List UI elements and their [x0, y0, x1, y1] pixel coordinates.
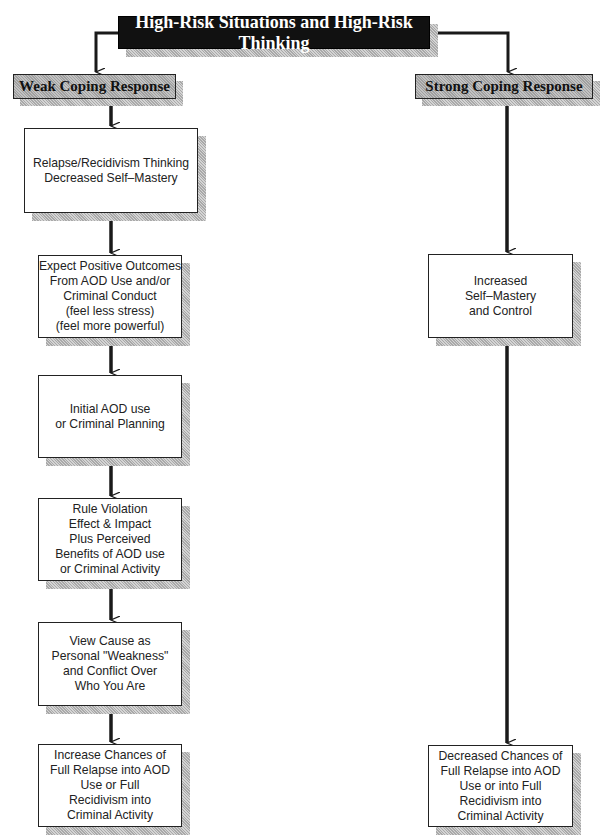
step-line: Increased: [474, 274, 528, 289]
weak-step-5: View Cause as Personal "Weakness" and Co…: [38, 622, 182, 706]
connector-title-to-strong: [430, 33, 508, 72]
step-line: Decreased Self–Mastery: [44, 171, 177, 186]
step-line: Full Relapse into AOD: [441, 764, 561, 779]
step-line: or Criminal Activity: [60, 562, 160, 577]
step-line: Expect Positive Outcomes: [39, 259, 181, 274]
weak-step-1: Relapse/Recidivism Thinking Decreased Se…: [24, 128, 198, 213]
step-line: Use or into Full: [460, 779, 542, 794]
step-line: Rule Violation: [73, 502, 148, 517]
step-line: or Criminal Planning: [55, 417, 165, 432]
strong-step-1: Increased Self–Mastery and Control: [428, 254, 573, 338]
step-line: From AOD Use and/or: [50, 274, 171, 289]
step-line: Benefits of AOD use: [55, 547, 165, 562]
weak-coping-label: Weak Coping Response: [19, 78, 170, 95]
strong-coping-box: Strong Coping Response: [415, 74, 593, 99]
title-box: High-Risk Situations and High-Risk Think…: [118, 16, 430, 49]
weak-step-2: Expect Positive Outcomes From AOD Use an…: [38, 255, 182, 338]
flowchart: High-Risk Situations and High-Risk Think…: [0, 0, 607, 835]
title-text: High-Risk Situations and High-Risk Think…: [119, 12, 429, 54]
step-line: and Control: [469, 304, 532, 319]
step-line: Criminal Conduct: [63, 289, 156, 304]
step-line: (feel more powerful): [56, 319, 164, 334]
step-line: Recidivism into: [69, 793, 151, 808]
step-line: and Conflict Over: [63, 664, 157, 679]
strong-step-2: Decreased Chances of Full Relapse into A…: [428, 745, 573, 827]
step-line: View Cause as: [69, 634, 150, 649]
weak-step-6: Increase Chances of Full Relapse into AO…: [38, 744, 182, 827]
strong-coping-label: Strong Coping Response: [425, 78, 582, 95]
step-line: Full Relapse into AOD: [50, 763, 170, 778]
weak-coping-box: Weak Coping Response: [13, 74, 176, 99]
step-line: Increase Chances of: [54, 748, 166, 763]
step-line: Use or Full: [81, 778, 140, 793]
step-line: Recidivism into: [460, 794, 542, 809]
step-line: Effect & Impact: [69, 517, 151, 532]
step-line: (feel less stress): [66, 304, 155, 319]
step-line: Criminal Activity: [67, 808, 153, 823]
step-line: Decreased Chances of: [439, 749, 563, 764]
weak-step-4: Rule Violation Effect & Impact Plus Perc…: [38, 498, 182, 581]
weak-step-3: Initial AOD use or Criminal Planning: [38, 375, 182, 458]
step-line: Criminal Activity: [457, 809, 543, 824]
step-line: Who You Are: [75, 679, 145, 694]
step-line: Personal "Weakness": [52, 649, 169, 664]
step-line: Initial AOD use: [70, 402, 151, 417]
step-line: Self–Mastery: [465, 289, 536, 304]
step-line: Relapse/Recidivism Thinking: [33, 156, 189, 171]
connector-title-to-weak: [96, 33, 120, 72]
step-line: Plus Perceived: [69, 532, 150, 547]
